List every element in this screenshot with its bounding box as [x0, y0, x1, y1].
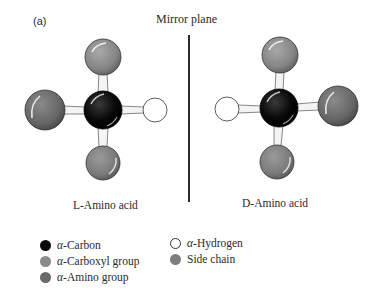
- d-caption-text: -Amino acid: [250, 197, 308, 209]
- legend-item-side-chain: Side chain: [170, 253, 235, 265]
- d-amino-acid-caption: D-Amino acid: [242, 197, 308, 209]
- legend-item-alpha-amino: α-Amino group: [40, 271, 129, 283]
- hydrogen-atom: [143, 98, 167, 122]
- alpha-carbon-swatch-icon: [40, 240, 51, 251]
- side-chain-atom: [86, 146, 120, 180]
- amino-swatch-icon: [40, 272, 51, 283]
- l-amino-acid-model: [25, 39, 167, 180]
- legend-item-alpha-hydrogen: α-Hydrogen: [170, 237, 243, 249]
- side-chain-swatch-icon: [170, 254, 181, 265]
- legend-item-alpha-carbon: α-Carbon: [40, 239, 101, 251]
- carboxyl-swatch-icon: [40, 256, 51, 267]
- l-amino-acid-caption: L-Amino acid: [73, 199, 138, 211]
- side-chain-atom: [260, 145, 294, 179]
- hydrogen-atom: [215, 97, 239, 121]
- legend-item-alpha-carboxyl: α-Carboxyl group: [40, 255, 139, 267]
- carboxyl-group-atom: [262, 37, 298, 73]
- molecule-diagram: [0, 0, 372, 230]
- l-caption-text: -Amino acid: [80, 199, 138, 211]
- d-amino-acid-model: [215, 37, 358, 179]
- amino-group-atom: [25, 90, 65, 130]
- carboxyl-group-atom: [85, 39, 121, 75]
- alpha-carbon-atom: [260, 89, 298, 127]
- amino-group-atom: [318, 86, 358, 126]
- hydrogen-swatch-icon: [170, 238, 181, 249]
- alpha-carbon-atom: [84, 91, 122, 129]
- l-prefix: L: [73, 199, 80, 211]
